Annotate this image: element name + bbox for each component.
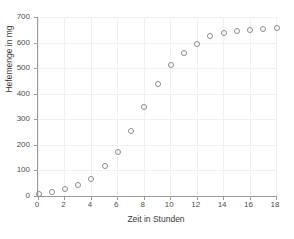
y-tick-mark [34, 68, 38, 69]
gridline-horizontal [38, 43, 276, 44]
y-tick-label: 100 [0, 165, 30, 175]
data-point [62, 186, 68, 192]
gridline-vertical [170, 17, 171, 196]
y-tick-mark [34, 94, 38, 95]
gridline-horizontal [38, 68, 276, 69]
gridline-vertical [223, 17, 224, 196]
gridline-horizontal [38, 119, 276, 120]
gridline-horizontal [38, 94, 276, 95]
data-point [49, 189, 55, 195]
data-point [36, 191, 42, 197]
gridline-vertical [64, 17, 65, 196]
x-tick-label: 4 [88, 200, 92, 210]
data-point [128, 128, 134, 134]
data-point [194, 41, 200, 47]
x-tick-label: 10 [165, 200, 174, 210]
x-tick-label: 0 [35, 200, 39, 210]
gridline-horizontal [38, 17, 276, 18]
x-tick-label: 16 [244, 200, 253, 210]
data-point [75, 182, 81, 188]
gridline-vertical [91, 17, 92, 196]
x-tick-label: 2 [61, 200, 65, 210]
y-tick-mark [34, 170, 38, 171]
data-point [155, 81, 161, 87]
gridline-vertical [38, 17, 39, 196]
plot-area [37, 17, 276, 197]
gridline-vertical [250, 17, 251, 196]
y-tick-label: 300 [0, 114, 30, 124]
gridline-horizontal [38, 170, 276, 171]
data-point [221, 30, 227, 36]
data-point [274, 25, 280, 31]
x-tick-label: 14 [218, 200, 227, 210]
data-point [247, 27, 253, 33]
y-tick-mark [34, 119, 38, 120]
data-point [115, 149, 121, 155]
data-point [88, 176, 94, 182]
data-point [102, 163, 108, 169]
gridline-horizontal [38, 145, 276, 146]
y-tick-mark [34, 43, 38, 44]
data-point [207, 33, 213, 39]
gridline-vertical [117, 17, 118, 196]
gridline-vertical [276, 17, 277, 196]
data-point [260, 26, 266, 32]
x-tick-label: 18 [271, 200, 280, 210]
data-point [234, 28, 240, 34]
y-tick-label: 200 [0, 140, 30, 150]
y-tick-label: 0 [0, 191, 30, 201]
y-tick-mark [34, 17, 38, 18]
x-axis-title: Zeit in Stunden [37, 214, 275, 224]
x-tick-label: 8 [141, 200, 145, 210]
x-tick-label: 6 [114, 200, 118, 210]
data-point [181, 50, 187, 56]
figure-canvas: 024681012141618 0100200300400500600700 Z… [0, 0, 294, 239]
y-axis-title: Hefemenge in mg [4, 7, 14, 112]
data-point [141, 104, 147, 110]
y-tick-mark [34, 145, 38, 146]
x-tick-label: 12 [191, 200, 200, 210]
